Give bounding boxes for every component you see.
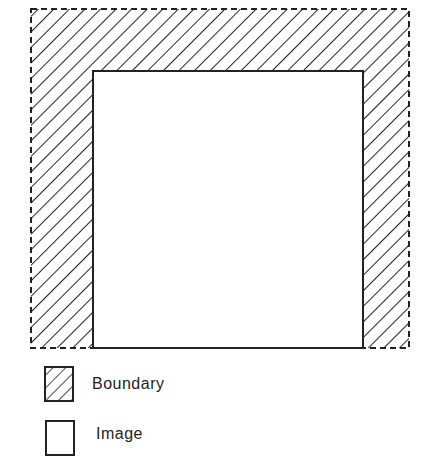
legend-boundary-swatch [45,367,73,401]
legend-label-boundary: Boundary [92,375,165,393]
boundary-image-diagram [0,0,431,467]
legend-image-swatch [46,421,74,455]
legend-label-image: Image [96,425,143,443]
image-region [93,71,363,348]
